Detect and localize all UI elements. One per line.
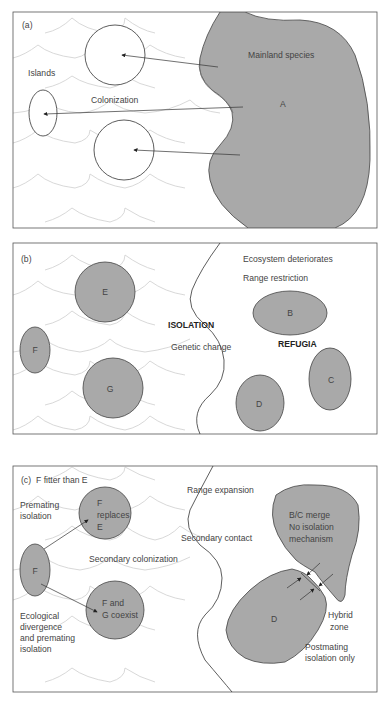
hybrid-label-1: Hybrid (328, 610, 353, 620)
population-c-label: C (328, 375, 334, 385)
island-bottom (94, 120, 154, 180)
range-restriction-label: Range restriction (243, 273, 308, 283)
population-g-label: G (107, 384, 114, 394)
ecological-label-3: and premating (20, 633, 75, 643)
arrow-to-replaces (44, 520, 88, 549)
island-top (85, 25, 145, 85)
merge-label-2: No isolation (289, 522, 334, 532)
replaces-label-3: E (97, 522, 103, 532)
replaces-label-2: replaces (97, 510, 129, 520)
coastline-b (190, 243, 224, 434)
range-expansion-label: Range expansion (187, 485, 254, 495)
islands-label: Islands (28, 68, 55, 78)
panel-b: (b) Ecosystem deteriorates Range restric… (13, 243, 377, 434)
isolation-label: ISOLATION (168, 320, 214, 330)
replaces-label-1: F (97, 498, 102, 508)
mainland-blob (199, 12, 370, 228)
premating-label-1: Premating (20, 500, 59, 510)
coexist-label-2: G coexist (102, 610, 138, 620)
secondary-colonization-label: Secondary colonization (89, 554, 178, 564)
mainland-letter: A (280, 99, 286, 109)
refugia-label: REFUGIA (278, 339, 317, 349)
hybrid-label-2: zone (330, 622, 349, 632)
fitter-label: F fitter than E (36, 475, 88, 485)
merge-label-1: B/C merge (289, 510, 330, 520)
panel-c: (c) F fitter than E Premating isolation … (13, 466, 377, 692)
f-small-label: F (32, 566, 37, 576)
coastline-c (188, 466, 232, 692)
population-f-label: F (32, 345, 37, 355)
colonization-label: Colonization (91, 95, 139, 105)
coexist-label-1: F and (102, 598, 124, 608)
ecosystem-label: Ecosystem deteriorates (243, 254, 333, 264)
panel-c-tag: (c) (21, 475, 31, 485)
ecological-label-1: Ecological (20, 611, 59, 621)
panel-a: (a) Islands Colonization Mainland specie… (13, 12, 377, 228)
mainland-species-label: Mainland species (248, 50, 314, 60)
premating-label-2: isolation (20, 511, 52, 521)
population-d-c-label: D (271, 614, 277, 624)
ecological-label-2: divergence (20, 622, 62, 632)
speciation-diagram: (a) Islands Colonization Mainland specie… (0, 0, 390, 705)
postmating-label-1: Postmating (305, 642, 348, 652)
panel-a-tag: (a) (22, 20, 33, 30)
ecological-label-4: isolation (20, 644, 52, 654)
genetic-change-label: Genetic change (171, 342, 231, 352)
merge-label-3: mechanism (289, 534, 333, 544)
island-left (29, 90, 57, 136)
population-d-label: D (256, 399, 262, 409)
panel-b-tag: (b) (21, 254, 32, 264)
population-b-label: B (287, 308, 293, 318)
secondary-contact-label: Secondary contact (181, 533, 253, 543)
population-e-label: E (102, 287, 108, 297)
postmating-label-2: isolation only (305, 653, 355, 663)
